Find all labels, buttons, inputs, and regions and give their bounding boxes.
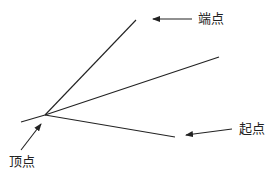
startpoint-label: 起点 <box>239 122 265 136</box>
angle-diagram <box>0 0 273 181</box>
upper-ray <box>45 20 136 115</box>
lower-ray <box>45 115 175 137</box>
startpoint-arrow <box>186 129 232 135</box>
tail-line <box>21 115 45 122</box>
endpoint-label: 端点 <box>198 12 224 26</box>
vertex-arrow <box>21 124 41 150</box>
vertex-label: 顶点 <box>9 155 35 169</box>
middle-ray <box>45 57 219 115</box>
